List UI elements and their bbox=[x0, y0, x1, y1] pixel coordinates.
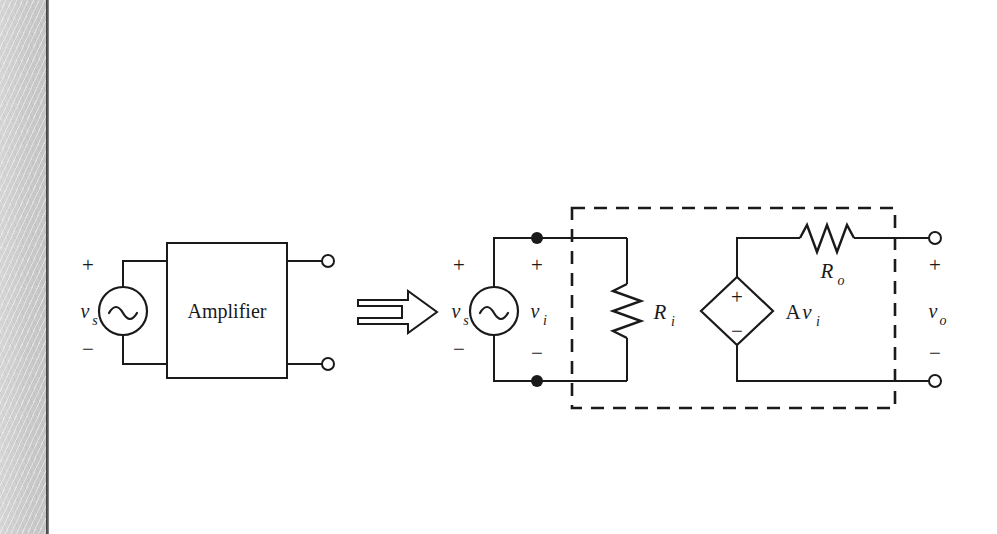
vi-plus-sign: + bbox=[531, 253, 543, 277]
dependent-source-label-symbol: v bbox=[802, 300, 812, 324]
wire-source-top-to-block bbox=[123, 261, 167, 287]
wire-input-bottom-rail bbox=[494, 335, 627, 381]
Ri-label-subscript: i bbox=[671, 314, 675, 329]
input-node-dot-bottom bbox=[531, 375, 543, 387]
dependent-source-label: A v i bbox=[785, 300, 820, 329]
vo-label-subscript: o bbox=[940, 313, 947, 328]
input-node-dot-top bbox=[531, 232, 543, 244]
right-source-plus-sign: + bbox=[453, 253, 465, 277]
transform-arrow-icon bbox=[358, 291, 437, 333]
vi-label-symbol: v bbox=[531, 300, 540, 322]
left-circuit-group: + v s − Amplifier bbox=[81, 243, 334, 378]
input-resistor-Ri: R i bbox=[613, 238, 675, 381]
Ri-zigzag-icon bbox=[613, 284, 641, 338]
right-source-label-symbol: v bbox=[452, 300, 461, 322]
transform-arrow-shape bbox=[358, 291, 437, 333]
left-source-label-subscript: s bbox=[92, 313, 98, 328]
Ro-zigzag-icon bbox=[800, 225, 854, 252]
dependent-source-plus-sign: + bbox=[731, 285, 743, 309]
vo-label: v o bbox=[929, 300, 947, 328]
wire-output-bottom-rail bbox=[737, 345, 935, 381]
Ri-label: R i bbox=[653, 300, 675, 329]
output-terminal-bottom-icon bbox=[322, 358, 334, 370]
left-source-label: v s bbox=[81, 300, 99, 328]
vi-label-subscript: i bbox=[543, 313, 547, 328]
right-source-minus-sign: − bbox=[453, 337, 465, 361]
output-resistor-Ro: R o bbox=[800, 225, 935, 288]
wire-dependent-source-to-Ro bbox=[737, 238, 800, 277]
vi-label: v i bbox=[531, 300, 548, 328]
vo-minus-sign: − bbox=[929, 341, 941, 365]
left-source-minus-sign: − bbox=[82, 337, 94, 361]
left-output-terminals bbox=[287, 255, 334, 370]
dependent-source-label-gain: A bbox=[785, 300, 801, 324]
right-ac-source bbox=[470, 287, 518, 335]
right-circuit-group: + v s − + v i − bbox=[452, 208, 947, 408]
vi-minus-sign: − bbox=[531, 341, 543, 365]
output-terminal-plus-icon bbox=[929, 232, 941, 244]
circuit-diagram-canvas: + v s − Amplifier bbox=[0, 0, 997, 534]
left-source-plus-sign: + bbox=[82, 253, 94, 277]
left-ac-source bbox=[99, 287, 147, 335]
output-terminal-top-icon bbox=[322, 255, 334, 267]
figure-page: + v s − Amplifier bbox=[0, 0, 997, 534]
dependent-voltage-source: + − A v i bbox=[701, 277, 820, 345]
vo-label-symbol: v bbox=[929, 300, 938, 322]
dependent-source-minus-sign: − bbox=[731, 319, 743, 343]
wire-source-bottom-to-block bbox=[123, 335, 167, 364]
right-source-label-subscript: s bbox=[463, 313, 469, 328]
left-source-label-symbol: v bbox=[81, 300, 90, 322]
Ri-label-symbol: R bbox=[653, 300, 667, 324]
amplifier-block-label: Amplifier bbox=[188, 300, 267, 323]
Ro-label-symbol: R bbox=[820, 259, 834, 283]
wire-input-top-rail bbox=[494, 238, 627, 287]
vo-plus-sign: + bbox=[929, 253, 941, 277]
right-source-label: v s bbox=[452, 300, 470, 328]
Ro-label-subscript: o bbox=[838, 273, 845, 288]
dependent-source-label-subscript: i bbox=[816, 314, 820, 329]
Ro-label: R o bbox=[820, 259, 845, 288]
output-terminal-minus-icon bbox=[929, 375, 941, 387]
